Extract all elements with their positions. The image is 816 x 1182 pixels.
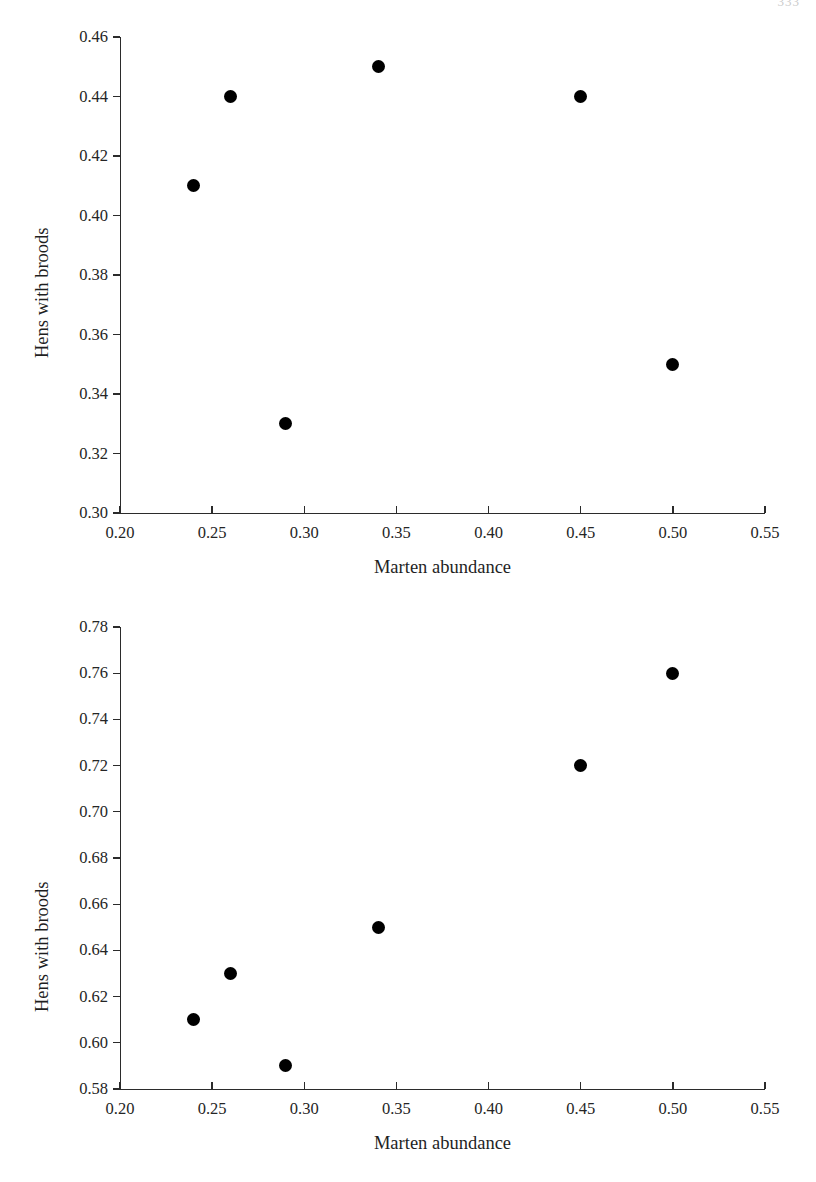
x-axis-tick: [580, 506, 581, 513]
y-axis-tick: [113, 96, 120, 97]
y-axis-line: [120, 37, 121, 513]
y-axis-tick-label: 0.70: [40, 802, 108, 822]
y-axis-tick-label: 0.72: [40, 756, 108, 776]
data-point: [187, 179, 200, 192]
y-axis-tick-label: 0.30: [40, 503, 108, 523]
y-axis-tick: [113, 811, 120, 812]
data-point: [224, 90, 237, 103]
y-axis-title: Hens with broods: [32, 227, 53, 358]
data-point: [666, 667, 679, 680]
x-axis-tick: [764, 506, 765, 513]
y-axis-tick: [113, 1042, 120, 1043]
x-axis-tick-label: 0.50: [658, 1099, 687, 1119]
x-axis-tick-label: 0.45: [566, 523, 595, 543]
x-axis-tick-label: 0.35: [382, 1099, 411, 1119]
x-axis-tick-label: 0.40: [474, 523, 503, 543]
x-axis-tick-label: 0.55: [751, 1099, 780, 1119]
y-axis-tick-label: 0.60: [40, 1033, 108, 1053]
data-point: [279, 417, 292, 430]
y-axis-tick-label: 0.42: [40, 146, 108, 166]
data-point: [187, 1013, 200, 1026]
y-axis-tick: [113, 765, 120, 766]
y-axis-tick-label: 0.34: [40, 384, 108, 404]
y-axis-tick: [113, 996, 120, 997]
y-axis-tick: [113, 215, 120, 216]
x-axis-tick-label: 0.20: [106, 1099, 135, 1119]
y-axis-tick: [113, 857, 120, 858]
x-axis-tick-label: 0.55: [751, 523, 780, 543]
y-axis-tick: [113, 626, 120, 627]
x-axis-tick: [396, 1082, 397, 1089]
x-axis-tick: [396, 506, 397, 513]
y-axis-tick-label: 0.32: [40, 444, 108, 464]
x-axis-tick: [580, 1082, 581, 1089]
y-axis-tick-label: 0.76: [40, 663, 108, 683]
y-axis-title: Hens with broods: [32, 881, 53, 1012]
plot-area-bottom: 0.580.600.620.640.660.680.700.720.740.76…: [0, 600, 816, 1182]
y-axis-tick: [113, 155, 120, 156]
y-axis-tick: [113, 274, 120, 275]
data-point: [372, 921, 385, 934]
data-point: [372, 60, 385, 73]
plot-area-top: 0.300.320.340.360.380.400.420.440.460.20…: [0, 0, 816, 600]
x-axis-title: Marten abundance: [374, 557, 511, 578]
data-point: [574, 90, 587, 103]
x-axis-tick-label: 0.50: [658, 523, 687, 543]
x-axis-tick-label: 0.25: [198, 1099, 227, 1119]
x-axis-tick: [211, 1082, 212, 1089]
x-axis-tick: [488, 1082, 489, 1089]
x-axis-tick-label: 0.35: [382, 523, 411, 543]
x-axis-tick-label: 0.40: [474, 1099, 503, 1119]
y-axis-tick: [113, 393, 120, 394]
y-axis-tick: [113, 950, 120, 951]
x-axis-tick: [672, 1082, 673, 1089]
y-axis-tick: [113, 453, 120, 454]
y-axis-tick-label: 0.74: [40, 709, 108, 729]
y-axis-tick: [113, 334, 120, 335]
x-axis-line: [120, 513, 765, 514]
x-axis-tick: [304, 506, 305, 513]
x-axis-tick-label: 0.45: [566, 1099, 595, 1119]
y-axis-tick: [113, 36, 120, 37]
x-axis-tick: [119, 1082, 120, 1089]
x-axis-title: Marten abundance: [374, 1133, 511, 1154]
x-axis-tick-label: 0.30: [290, 523, 319, 543]
y-axis-tick-label: 0.44: [40, 87, 108, 107]
x-axis-tick: [304, 1082, 305, 1089]
y-axis-tick-label: 0.40: [40, 206, 108, 226]
x-axis-tick-label: 0.20: [106, 523, 135, 543]
data-point: [279, 1059, 292, 1072]
y-axis-tick-label: 0.46: [40, 27, 108, 47]
scatter-chart-top: 0.300.320.340.360.380.400.420.440.460.20…: [0, 0, 816, 600]
x-axis-tick: [672, 506, 673, 513]
x-axis-tick-label: 0.25: [198, 523, 227, 543]
x-axis-line: [120, 1089, 765, 1090]
y-axis-tick: [113, 904, 120, 905]
y-axis-tick: [113, 673, 120, 674]
y-axis-line: [120, 627, 121, 1089]
data-point: [666, 358, 679, 371]
x-axis-tick: [764, 1082, 765, 1089]
x-axis-tick-label: 0.30: [290, 1099, 319, 1119]
y-axis-tick-label: 0.68: [40, 848, 108, 868]
x-axis-tick: [211, 506, 212, 513]
x-axis-tick: [488, 506, 489, 513]
data-point: [574, 759, 587, 772]
y-axis-tick: [113, 719, 120, 720]
scatter-chart-bottom: 0.580.600.620.640.660.680.700.720.740.76…: [0, 600, 816, 1182]
y-axis-tick-label: 0.78: [40, 617, 108, 637]
data-point: [224, 967, 237, 980]
y-axis-tick-label: 0.58: [40, 1079, 108, 1099]
x-axis-tick: [119, 506, 120, 513]
